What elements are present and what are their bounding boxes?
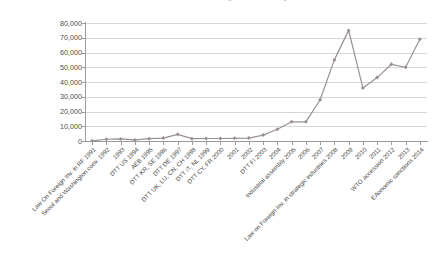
data-point-marker	[190, 137, 194, 141]
x-axis-tick-mark	[235, 142, 236, 145]
x-axis-tick-mark	[206, 142, 207, 145]
x-axis-tick-mark	[106, 142, 107, 145]
x-axis-tick-mark	[306, 142, 307, 145]
data-point-marker	[161, 136, 165, 140]
data-point-marker	[275, 127, 279, 131]
x-axis-tick-mark	[334, 142, 335, 145]
x-axis-tick-mark	[420, 142, 421, 145]
y-axis-tick-mark	[82, 141, 85, 142]
y-axis-tick-mark	[82, 82, 85, 83]
y-axis-tick-label: 50,000	[12, 64, 82, 71]
y-axis-tick-mark	[82, 23, 85, 24]
y-axis-tick-label: 70,000	[12, 34, 82, 41]
x-axis-tick-mark	[377, 142, 378, 145]
x-axis-tick-mark	[263, 142, 264, 145]
data-point-marker	[332, 58, 336, 62]
x-axis-tick-mark	[249, 142, 250, 145]
data-point-marker	[418, 37, 422, 41]
line-chart: Law On Foreign Inv. in RF 1991Seoul and …	[0, 0, 434, 275]
x-axis-tick-mark	[135, 142, 136, 145]
x-axis-tick-mark	[149, 142, 150, 145]
x-axis-tick-mark	[178, 142, 179, 145]
data-point-marker	[176, 132, 180, 136]
data-point-marker	[204, 136, 208, 140]
x-axis-tick-mark	[192, 142, 193, 145]
x-axis-tick-mark	[320, 142, 321, 145]
y-axis-tick-label: 40,000	[12, 79, 82, 86]
x-axis-tick-mark	[220, 142, 221, 145]
x-axis-tick-mark	[121, 142, 122, 145]
y-axis-tick-mark	[82, 97, 85, 98]
x-axis-tick-mark	[163, 142, 164, 145]
data-point-marker	[218, 136, 222, 140]
y-axis-tick-label: 80,000	[12, 20, 82, 27]
series-polyline	[92, 30, 420, 140]
x-axis-labels: Law On Foreign Inv. in RF 1991Seoul and …	[0, 145, 434, 275]
data-point-marker	[233, 136, 237, 140]
data-point-marker	[404, 65, 408, 69]
y-axis-tick-label: 30,000	[12, 93, 82, 100]
y-axis-tick-mark	[82, 53, 85, 54]
data-point-marker	[261, 133, 265, 137]
data-point-marker	[147, 137, 151, 141]
data-point-marker	[247, 136, 251, 140]
y-axis-tick-label: 10,000	[12, 123, 82, 130]
x-axis-tick-mark	[277, 142, 278, 145]
y-axis-tick-mark	[82, 112, 85, 113]
y-axis-tick-mark	[82, 38, 85, 39]
data-point-marker	[104, 137, 108, 141]
y-axis-tick-mark	[82, 126, 85, 127]
series-line-fdi-inflow	[85, 23, 427, 141]
y-axis-tick-label: 0	[12, 138, 82, 145]
x-axis-tick-mark	[349, 142, 350, 145]
data-point-marker	[119, 137, 123, 141]
x-axis-tick-mark	[391, 142, 392, 145]
x-axis-tick-mark	[92, 142, 93, 145]
y-axis-tick-label: 20,000	[12, 108, 82, 115]
x-axis-tick-mark	[406, 142, 407, 145]
y-axis-tick-label: 60,000	[12, 49, 82, 56]
data-point-marker	[347, 28, 351, 32]
y-axis-tick-mark	[82, 67, 85, 68]
x-axis-tick-mark	[363, 142, 364, 145]
x-axis-tick-mark	[292, 142, 293, 145]
